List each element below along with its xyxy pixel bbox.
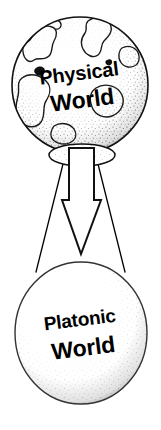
projection-line-left: [36, 160, 64, 272]
projection-line-right: [97, 160, 125, 272]
physical-to-platonic-diagram: Physical World Platonic World: [0, 0, 161, 430]
physical-world-globe: Physical World: [12, 17, 148, 153]
platonic-world-sphere: Platonic World: [15, 262, 147, 404]
diagram-canvas: Physical World Platonic World: [0, 0, 161, 430]
physical-world-label: Physical World: [38, 57, 123, 117]
